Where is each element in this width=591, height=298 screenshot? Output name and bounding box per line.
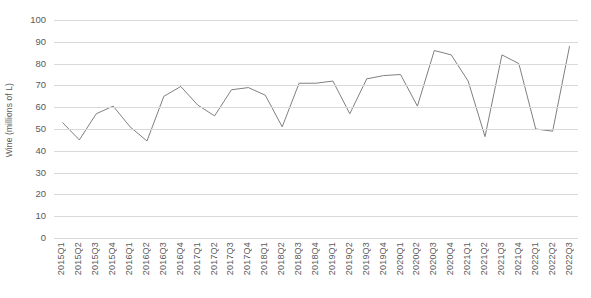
y-tick-label-10: 10 bbox=[18, 211, 50, 221]
gridline-100 bbox=[54, 20, 578, 21]
x-tick-label-2015Q3: 2015Q3 bbox=[91, 242, 100, 275]
x-tick-label-2020Q3: 2020Q3 bbox=[429, 242, 438, 275]
gridline-10 bbox=[54, 216, 578, 217]
y-tick-label-30: 30 bbox=[18, 168, 50, 178]
gridline-30 bbox=[54, 173, 578, 174]
gridline-80 bbox=[54, 64, 578, 65]
y-tick-label-0: 0 bbox=[18, 233, 50, 243]
gridline-20 bbox=[54, 194, 578, 195]
y-tick-label-90: 90 bbox=[18, 37, 50, 47]
x-tick-label-2017Q2: 2017Q2 bbox=[210, 242, 219, 275]
wine-quarterly-line-chart: Wine (millions of L) 1009080706050403020… bbox=[0, 0, 591, 298]
x-tick-label-2018Q2: 2018Q2 bbox=[277, 242, 286, 275]
x-tick-label-2017Q1: 2017Q1 bbox=[193, 242, 202, 275]
y-axis-tick-labels: 1009080706050403020100 bbox=[18, 0, 50, 298]
x-tick-label-2016Q4: 2016Q4 bbox=[176, 242, 185, 275]
x-tick-label-2019Q3: 2019Q3 bbox=[362, 242, 371, 275]
x-tick-label-2022Q2: 2022Q2 bbox=[548, 242, 557, 275]
x-tick-label-2021Q2: 2021Q2 bbox=[480, 242, 489, 275]
x-tick-label-2019Q1: 2019Q1 bbox=[328, 242, 337, 275]
y-tick-label-40: 40 bbox=[18, 146, 50, 156]
gridline-70 bbox=[54, 85, 578, 86]
series-polyline bbox=[62, 46, 569, 141]
gridline-60 bbox=[54, 107, 578, 108]
x-tick-label-2017Q3: 2017Q3 bbox=[226, 242, 235, 275]
x-tick-label-2021Q3: 2021Q3 bbox=[497, 242, 506, 275]
x-axis-tick-labels: 2015Q12015Q22015Q32015Q42016Q12016Q22016… bbox=[54, 240, 578, 298]
y-axis-title: Wine (millions of L) bbox=[0, 0, 18, 240]
x-tick-label-2019Q4: 2019Q4 bbox=[379, 242, 388, 275]
x-tick-label-2016Q3: 2016Q3 bbox=[159, 242, 168, 275]
x-tick-label-2018Q3: 2018Q3 bbox=[294, 242, 303, 275]
x-tick-label-2018Q4: 2018Q4 bbox=[311, 242, 320, 275]
y-tick-label-20: 20 bbox=[18, 190, 50, 200]
y-tick-label-60: 60 bbox=[18, 102, 50, 112]
x-tick-label-2022Q1: 2022Q1 bbox=[531, 242, 540, 275]
y-tick-label-50: 50 bbox=[18, 124, 50, 134]
plot-area bbox=[54, 20, 578, 238]
x-tick-label-2022Q3: 2022Q3 bbox=[565, 242, 574, 275]
x-tick-label-2021Q4: 2021Q4 bbox=[514, 242, 523, 275]
y-tick-label-100: 100 bbox=[18, 15, 50, 25]
y-tick-label-80: 80 bbox=[18, 59, 50, 69]
x-tick-label-2016Q2: 2016Q2 bbox=[142, 242, 151, 275]
x-tick-label-2016Q1: 2016Q1 bbox=[125, 242, 134, 275]
x-tick-label-2020Q1: 2020Q1 bbox=[396, 242, 405, 275]
x-tick-label-2021Q1: 2021Q1 bbox=[463, 242, 472, 275]
y-tick-label-70: 70 bbox=[18, 81, 50, 91]
y-axis-title-label: Wine (millions of L) bbox=[4, 83, 14, 157]
x-tick-label-2019Q2: 2019Q2 bbox=[345, 242, 354, 275]
x-tick-label-2015Q4: 2015Q4 bbox=[108, 242, 117, 275]
x-tick-label-2020Q4: 2020Q4 bbox=[446, 242, 455, 275]
gridline-40 bbox=[54, 151, 578, 152]
x-tick-label-2018Q1: 2018Q1 bbox=[260, 242, 269, 275]
gridline-90 bbox=[54, 42, 578, 43]
x-tick-label-2017Q4: 2017Q4 bbox=[243, 242, 252, 275]
x-tick-label-2015Q2: 2015Q2 bbox=[74, 242, 83, 275]
x-tick-label-2020Q2: 2020Q2 bbox=[412, 242, 421, 275]
gridline-50 bbox=[54, 129, 578, 130]
gridline-0 bbox=[54, 238, 578, 239]
x-tick-label-2015Q1: 2015Q1 bbox=[57, 242, 66, 275]
